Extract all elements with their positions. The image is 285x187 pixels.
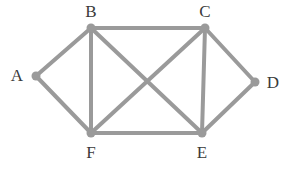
vertex-label-e: E [197, 144, 207, 161]
graph-edge-c-e [202, 28, 205, 133]
graph-diagram: ABCDEF [0, 0, 285, 187]
graph-vertex-f [87, 129, 96, 138]
graph-vertex-b [87, 24, 96, 33]
graph-vertex-d [251, 78, 260, 87]
graph-edge-d-e [202, 82, 255, 133]
vertex-label-b: B [85, 3, 96, 20]
vertex-label-d: D [267, 74, 279, 91]
vertex-label-c: C [199, 3, 210, 20]
vertex-label-f: F [86, 144, 95, 161]
vertex-label-a: A [11, 67, 23, 84]
graph-canvas [0, 0, 285, 187]
graph-edge-c-d [205, 28, 255, 82]
graph-vertex-c [201, 24, 210, 33]
graph-edge-a-b [36, 28, 91, 76]
graph-vertex-a [32, 72, 41, 81]
edge-layer [36, 28, 255, 133]
graph-vertex-e [198, 129, 207, 138]
graph-edge-a-f [36, 76, 91, 133]
